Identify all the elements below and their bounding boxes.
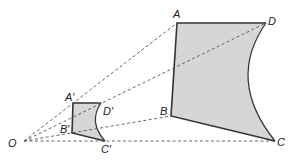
label-c-prime: C′ [101, 143, 112, 155]
label-c: C [277, 136, 285, 148]
label-o: O [8, 137, 17, 149]
label-b: B [160, 105, 167, 117]
label-a: A [172, 8, 180, 20]
label-b-prime: B′ [60, 123, 70, 135]
label-a-prime: A′ [64, 91, 75, 103]
ray-oa [24, 23, 177, 141]
shape-abcd [171, 23, 275, 141]
enlargement-diagram: O A D B C A′ D′ B′ C′ [0, 0, 300, 162]
label-d-prime: D′ [103, 105, 114, 117]
label-d: D [268, 15, 276, 27]
